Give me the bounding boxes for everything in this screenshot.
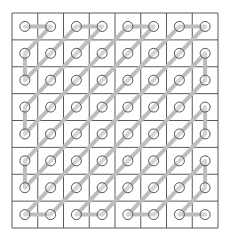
grid-node [97,129,107,139]
grid-node [123,156,133,166]
grid-node [46,183,56,193]
grid-node [174,102,184,112]
grid-node [71,75,81,85]
grid-node [149,48,159,58]
grid-node [71,129,81,139]
grid-node [174,210,184,220]
grid-node [200,48,210,58]
grid-node [20,210,30,220]
grid-node [149,21,159,31]
grid-node [46,210,56,220]
grid-node [71,48,81,58]
grid-node [20,48,30,58]
grid-node [123,48,133,58]
grid-node [174,75,184,85]
grid-node [97,21,107,31]
grid-node [200,156,210,166]
grid-node [20,75,30,85]
grid-node [174,21,184,31]
grid-node [123,210,133,220]
grid-node [46,75,56,85]
grid-node [174,183,184,193]
grid-node [20,129,30,139]
grid-node [71,102,81,112]
grid-node [71,156,81,166]
grid-node [123,102,133,112]
grid-node [97,75,107,85]
grid-node [123,21,133,31]
grid-node [174,48,184,58]
grid-node [46,102,56,112]
grid-node [149,183,159,193]
grid-node [149,129,159,139]
grid-node [71,210,81,220]
grid-node [149,210,159,220]
grid-node [20,102,30,112]
grid-node [20,21,30,31]
grid-node [200,21,210,31]
grid-node [97,156,107,166]
grid-node [97,48,107,58]
grid-node [20,183,30,193]
grid-node [20,156,30,166]
grid-node [123,129,133,139]
grid-node [200,183,210,193]
grid-node [71,183,81,193]
grid-node [200,129,210,139]
grid-node [123,75,133,85]
grid-node [46,21,56,31]
grid-node [149,102,159,112]
grid-node [97,102,107,112]
grid-node [149,156,159,166]
grid-node [174,129,184,139]
grid-node [200,210,210,220]
grid-node [71,21,81,31]
grid-node [149,75,159,85]
grid-node [200,102,210,112]
grid-node [97,210,107,220]
grid-node [174,156,184,166]
grid-node [46,156,56,166]
zigzag-diagram [0,0,229,238]
grid-node [46,48,56,58]
grid-node [97,183,107,193]
grid-node [200,75,210,85]
grid-node [123,183,133,193]
grid-node [46,129,56,139]
